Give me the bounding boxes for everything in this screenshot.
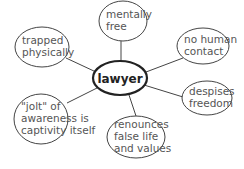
connector-line-no-human-contact xyxy=(146,58,183,72)
idea-bubble-renounces-false-life: renouncesfalse lifeand values xyxy=(107,116,171,158)
bubble-label-line: freedom xyxy=(189,97,233,109)
bubble-label-line: mentally xyxy=(106,8,152,20)
bubble-label-line: renounces xyxy=(114,118,169,130)
connector-line-jolt-of-awareness xyxy=(67,88,97,103)
idea-bubble-mentally-free: mentallyfree xyxy=(99,1,152,41)
bubble-label-line: "jolt" of xyxy=(21,100,61,112)
idea-bubble-no-human-contact: no humancontact xyxy=(177,28,237,64)
mind-map-canvas: mentallyfreetrappedphysicallyno humancon… xyxy=(0,0,244,169)
mind-map-diagram: mentallyfreetrappedphysicallyno humancon… xyxy=(0,0,244,169)
connector-line-trapped-physically xyxy=(66,58,96,72)
connector-line-despises-freedom xyxy=(144,85,183,97)
bubble-label-line: contact xyxy=(184,45,223,57)
bubble-label-line: and values xyxy=(114,142,171,154)
connector-line-renounces-false-life xyxy=(129,95,136,116)
idea-bubble-jolt-of-awareness: "jolt" ofawareness iscaptivity itself xyxy=(14,94,96,144)
bubble-label-line: physically xyxy=(22,46,74,58)
central-node-label: lawyer xyxy=(97,72,142,86)
central-node: lawyer xyxy=(93,61,147,95)
bubble-label-line: no human xyxy=(184,33,237,45)
idea-bubble-despises-freedom: despisesfreedom xyxy=(182,81,235,115)
bubble-label-line: false life xyxy=(114,130,158,142)
bubble-label-line: trapped xyxy=(22,34,63,46)
bubble-label-line: despises xyxy=(189,85,235,97)
bubble-label-line: free xyxy=(106,20,127,32)
bubble-label-line: captivity itself xyxy=(21,124,96,136)
idea-bubble-trapped-physically: trappedphysically xyxy=(15,27,74,67)
bubble-label-line: awareness is xyxy=(21,112,89,124)
